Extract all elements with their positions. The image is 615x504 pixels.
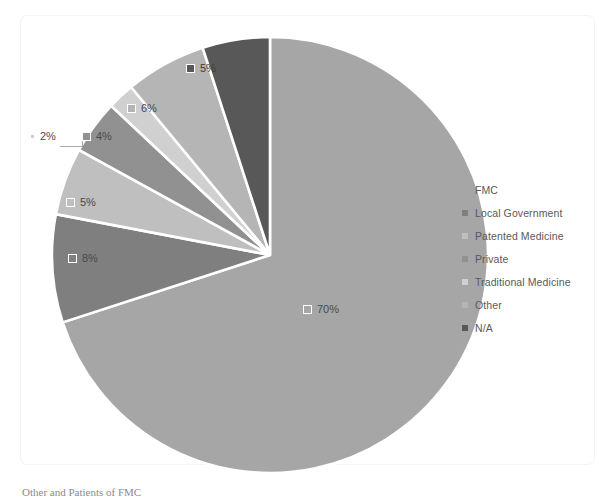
slice-marker-na [186,64,195,73]
legend-label-patented-medicine: Patented Medicine [475,230,564,242]
slice-value-private: 4% [96,130,112,142]
figure-caption: Other and Patients of FMC [22,486,141,498]
slice-value-other: 6% [141,102,157,114]
slice-label-other: 6% [127,102,157,114]
slice-value-local-government: 8% [82,252,98,264]
legend-swatch-other [462,302,468,308]
legend-swatch-patented-medicine [462,233,468,239]
chart-legend: FMC Local Government Patented Medicine P… [462,178,602,339]
slice-marker-private [82,132,91,141]
slice-marker-local-government [68,254,77,263]
slice-value-traditional-medicine: 2% [40,130,56,142]
leader-line-traditional-medicine [60,134,83,147]
legend-label-local-government: Local Government [475,207,562,219]
legend-item-local-government[interactable]: Local Government [462,201,602,224]
slice-value-na: 5% [200,62,216,74]
slice-label-fmc: 70% [303,303,339,315]
legend-swatch-traditional-medicine [462,279,468,285]
slice-label-local-government: 8% [68,252,98,264]
slice-marker-patented-medicine [66,198,75,207]
legend-label-na: N/A [475,322,493,334]
pie-slice-group [52,37,488,473]
legend-label-fmc: FMC [475,184,498,196]
slice-marker-traditional-medicine [30,134,35,139]
slice-marker-fmc [303,305,312,314]
slice-label-private: 4% [82,130,112,142]
legend-swatch-fmc [462,187,468,193]
legend-item-other[interactable]: Other [462,293,602,316]
legend-item-private[interactable]: Private [462,247,602,270]
slice-label-patented-medicine: 5% [66,196,96,208]
slice-value-fmc: 70% [317,303,339,315]
legend-label-private: Private [475,253,508,265]
legend-item-patented-medicine[interactable]: Patented Medicine [462,224,602,247]
legend-swatch-private [462,256,468,262]
legend-item-na[interactable]: N/A [462,316,602,339]
slice-marker-other [127,104,136,113]
legend-label-other: Other [475,299,502,311]
legend-swatch-local-government [462,210,468,216]
slice-label-traditional-medicine: 2% [30,130,56,142]
slice-label-na: 5% [186,62,216,74]
legend-item-fmc[interactable]: FMC [462,178,602,201]
slice-value-patented-medicine: 5% [80,196,96,208]
legend-item-traditional-medicine[interactable]: Traditional Medicine [462,270,602,293]
legend-label-traditional-medicine: Traditional Medicine [475,276,571,288]
legend-swatch-na [462,325,468,331]
